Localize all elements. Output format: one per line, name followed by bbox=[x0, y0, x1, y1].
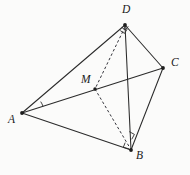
vertex-dot-A bbox=[20, 111, 24, 115]
right-angle-mark-D bbox=[121, 29, 127, 33]
vertex-dot-B bbox=[129, 148, 133, 152]
edge-D-B bbox=[125, 25, 131, 150]
vertex-label-C: C bbox=[171, 57, 179, 69]
vertex-dots bbox=[20, 23, 165, 152]
vertex-label-A: A bbox=[8, 114, 15, 126]
edge-A-D bbox=[22, 25, 125, 113]
vertex-dot-M bbox=[93, 87, 96, 90]
edge-D-C bbox=[125, 25, 163, 68]
vertex-dot-C bbox=[161, 66, 165, 70]
geometry-canvas bbox=[0, 0, 190, 175]
vertex-label-M: M bbox=[81, 74, 91, 86]
geometry-figure: D C A B M bbox=[0, 0, 190, 175]
edge-D-M bbox=[95, 27, 125, 89]
angle-arc-A bbox=[41, 102, 43, 107]
edge-C-B bbox=[131, 68, 163, 150]
edge-A-C bbox=[22, 68, 163, 113]
vertex-label-D: D bbox=[122, 4, 130, 16]
vertex-dot-D bbox=[123, 23, 127, 27]
vertex-label-B: B bbox=[136, 150, 143, 162]
angle-marks bbox=[41, 27, 135, 149]
solid-edges bbox=[22, 25, 163, 150]
edge-A-B bbox=[22, 113, 131, 150]
